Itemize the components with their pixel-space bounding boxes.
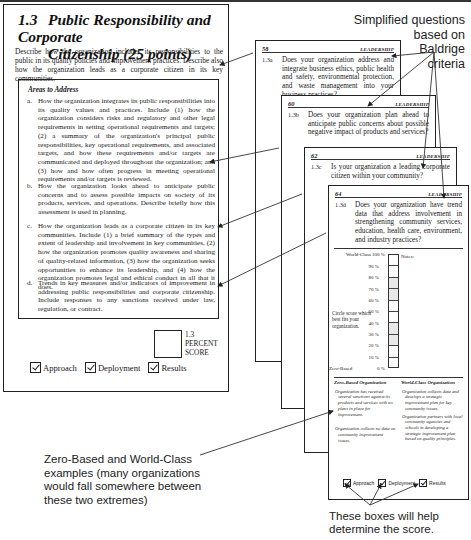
- score-label-score: SCORE: [185, 348, 218, 357]
- section-description: Describe how the organization includes i…: [15, 47, 223, 83]
- zero-based-example: Organization collects no data on communi…: [334, 426, 396, 443]
- checkbox-checked-icon[interactable]: [85, 362, 96, 373]
- deployment-checkbox[interactable]: Deployment: [85, 362, 140, 373]
- approach-checkbox[interactable]: Approach: [30, 362, 77, 373]
- score-scale-boxes: [388, 254, 399, 368]
- scale-cell-30[interactable]: [389, 335, 398, 346]
- world-class-example: Organization collects data and develops …: [401, 389, 463, 412]
- score-label-percent: PERCENT: [185, 339, 218, 348]
- question-number: 1.3a: [262, 56, 282, 100]
- notes-label: Notes:: [401, 254, 414, 259]
- card-page-number: 60: [288, 100, 294, 107]
- checkbox-checked-icon[interactable]: [148, 362, 159, 373]
- scale-level-60: 60 %: [329, 298, 379, 303]
- card-section: LEADERSHIP: [428, 192, 462, 197]
- scale-level-10: 10 %: [329, 355, 379, 360]
- score-checkboxes: Approach Deployment Results: [30, 362, 187, 373]
- card-header: 64 LEADERSHIP: [335, 188, 462, 198]
- question-number: 1.3c: [311, 163, 331, 180]
- scale-cell-90[interactable]: [389, 266, 398, 277]
- card-section: LEADERSHIP: [395, 102, 429, 107]
- annotation-line: determine the score.: [329, 523, 471, 536]
- scale-cell-20[interactable]: [389, 346, 398, 357]
- annotation-examples: Zero-Based and World-Class examples (man…: [44, 453, 204, 507]
- card-question: 1.3c Is your organization a leading corp…: [311, 163, 450, 180]
- scale-cell-80[interactable]: [389, 278, 398, 289]
- area-letter: a.: [27, 97, 38, 184]
- scale-cell-10[interactable]: [389, 358, 398, 369]
- percent-score-input[interactable]: [154, 330, 182, 358]
- annotation-line: Zero-Based and World-Class: [44, 453, 204, 467]
- top-rule: [0, 0, 471, 2]
- question-number: 1.3b: [288, 111, 308, 137]
- zero-based-column: Zero-Based Organization Organization has…: [334, 380, 396, 445]
- checkbox-label: Deployment: [388, 480, 415, 486]
- scale-bottom-label: Zero-Based: [329, 366, 352, 371]
- card-page-number: 64: [335, 190, 341, 197]
- score-label-number: 1.3: [185, 330, 218, 339]
- annotation-line: these two extremes): [44, 494, 204, 508]
- areas-to-address-box: Areas to Address a. How the organization…: [18, 79, 219, 319]
- scale-cell-100[interactable]: [389, 255, 398, 266]
- card-checkboxes: Approach Deployment Results: [343, 479, 448, 487]
- card-page-number: 62: [311, 152, 317, 159]
- examples-section: Zero-Based Organization Organization has…: [334, 380, 463, 445]
- scale-cell-40[interactable]: [389, 323, 398, 334]
- checkbox-checked-icon[interactable]: [30, 362, 41, 373]
- checkbox-label: Results: [429, 480, 446, 486]
- annotation-checkboxes: These boxes will help determine the scor…: [329, 510, 471, 536]
- card-question: 1.3d Does your organization have trend d…: [335, 201, 462, 245]
- divider: [334, 248, 463, 249]
- percent-score-label: 1.3 PERCENT SCORE: [185, 330, 218, 357]
- area-text: How the organization integrates its publ…: [38, 97, 215, 184]
- annotation-line: Baldrige: [305, 42, 465, 57]
- area-text: Trends in key measures and/or indicators…: [38, 279, 215, 314]
- question-number: 1.3d: [335, 201, 355, 245]
- scale-cell-60[interactable]: [389, 301, 398, 312]
- annotation-line: based on: [305, 28, 465, 43]
- annotation-line: criteria: [305, 57, 465, 72]
- question-text: Does your organization plan ahead to ant…: [308, 111, 429, 137]
- approach-checkbox[interactable]: [343, 479, 351, 487]
- area-item-b: b. How the organization looks ahead to a…: [27, 182, 215, 217]
- annotation-simplified-questions: Simplified questions based on Baldrige c…: [305, 13, 465, 71]
- question-text: Is your organization a leading corporate…: [331, 163, 450, 180]
- card-header: 60 LEADERSHIP: [288, 98, 429, 108]
- scale-bottom-row: Zero-Based 0 %: [329, 366, 385, 371]
- area-text: How the organization looks ahead to anti…: [38, 182, 215, 217]
- card-section: LEADERSHIP: [416, 154, 450, 159]
- card-header: 62 LEADERSHIP: [311, 150, 450, 160]
- checkbox-label: Deployment: [98, 363, 140, 373]
- scale-level-90: 90 %: [329, 264, 379, 269]
- question-card-1-3d: 64 LEADERSHIP 1.3d Does your organizatio…: [328, 185, 469, 500]
- area-letter: d.: [27, 279, 38, 314]
- scale-top-label: World-Class 100 %: [329, 252, 385, 257]
- area-item-d: d. Trends in key measures and/or indicat…: [27, 279, 215, 314]
- scale-level-30: 30 %: [329, 332, 379, 337]
- deployment-checkbox[interactable]: [378, 479, 386, 487]
- card-question: 1.3b Does your organization plan ahead t…: [288, 111, 429, 137]
- zero-based-example: Organization has received several sancti…: [334, 389, 396, 418]
- zero-based-title: Zero-Based Organization: [334, 380, 396, 386]
- world-class-title: World-Class Organization: [401, 380, 463, 386]
- divider: [334, 377, 463, 378]
- results-checkbox[interactable]: Results: [148, 362, 186, 373]
- scale-cell-50[interactable]: [389, 312, 398, 323]
- criteria-page: 1.3Public Responsibility and Corporate C…: [3, 4, 229, 392]
- scale-cell-70[interactable]: [389, 289, 398, 300]
- question-text: Does your organization have trend data t…: [355, 201, 462, 245]
- scale-level-20: 20 %: [329, 343, 379, 348]
- results-checkbox[interactable]: [419, 479, 427, 487]
- area-letter: b.: [27, 182, 38, 217]
- card-page-number: 58: [262, 45, 268, 52]
- annotation-line: Simplified questions: [305, 13, 465, 28]
- score-scale: World-Class 100 % 90 % 80 % 70 % 60 % 50…: [329, 250, 468, 375]
- checkbox-label: Approach: [43, 363, 77, 373]
- area-item-a: a. How the organization integrates its p…: [27, 97, 215, 184]
- scale-level-80: 80 %: [329, 275, 379, 280]
- scale-level-70: 70 %: [329, 287, 379, 292]
- annotation-line: These boxes will help: [329, 510, 471, 523]
- section-number: 1.3: [18, 11, 48, 28]
- world-class-column: World-Class Organization Organization co…: [401, 380, 463, 445]
- annotation-line: would fall somewhere between: [44, 480, 204, 494]
